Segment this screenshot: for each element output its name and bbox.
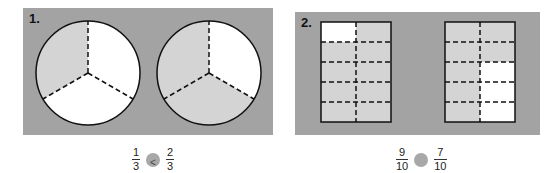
fraction-left: 9 10: [396, 147, 408, 172]
rectangle-seven-tenths: [445, 22, 515, 122]
answer-circle[interactable]: [414, 153, 428, 167]
answer-circle[interactable]: <: [146, 153, 160, 167]
answer-mark: <: [150, 158, 156, 168]
problem-2-panel: 2.: [295, 12, 540, 135]
problem-1-panel: 1.: [23, 8, 273, 135]
fraction-left: 1 3: [132, 147, 140, 172]
fraction-right: 2 3: [166, 147, 174, 172]
fraction-right: 7 10: [434, 147, 446, 172]
rectangle-nine-tenths: [321, 22, 391, 122]
problem-2-comparison: 9 10 7 10: [396, 147, 447, 172]
problem-1-comparison: 1 3 < 2 3: [132, 147, 174, 172]
circle-one-third: [36, 21, 140, 125]
circle-two-thirds: [157, 21, 261, 125]
problem-2-rectangles: [295, 12, 540, 135]
problem-1-circles: [23, 8, 273, 135]
